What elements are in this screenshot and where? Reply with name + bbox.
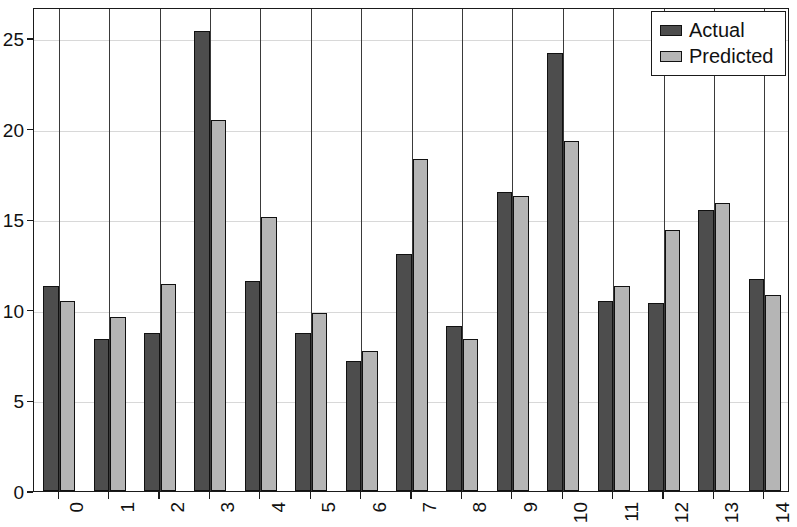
x-tick-label: 3 — [218, 502, 237, 513]
x-tick-mark — [259, 492, 260, 499]
bar-predicted — [715, 203, 731, 491]
bar-actual — [144, 333, 160, 491]
bar-predicted — [413, 159, 429, 491]
x-tick-mark — [58, 492, 59, 499]
x-tick-label: 12 — [672, 502, 691, 523]
bar-actual — [547, 53, 563, 492]
x-tick-label: 14 — [773, 502, 792, 523]
x-tick-mark — [410, 492, 411, 499]
bar-actual — [245, 281, 261, 491]
bar-actual — [446, 326, 462, 491]
x-tick-mark — [763, 492, 764, 499]
legend-entry-predicted: Predicted — [660, 43, 774, 69]
y-tick-label: 10 — [0, 301, 24, 320]
bar-predicted — [161, 284, 177, 491]
bar-actual — [346, 361, 362, 491]
x-tick-mark — [158, 492, 159, 499]
chart-legend: Actual Predicted — [651, 11, 786, 76]
x-tick-mark — [108, 492, 109, 499]
x-tick-label: 10 — [571, 502, 590, 523]
y-tick-label: 20 — [0, 120, 24, 139]
legend-swatch-predicted-icon — [660, 51, 682, 62]
bar-predicted — [614, 286, 630, 491]
bar-predicted — [463, 339, 479, 491]
bar-actual — [396, 254, 412, 491]
y-tick-label: 5 — [0, 392, 24, 411]
bar-predicted — [362, 351, 378, 491]
bar-actual — [94, 339, 110, 491]
bar-predicted — [564, 141, 580, 491]
x-axis: 01234567891011121314 — [33, 492, 789, 527]
legend-label-actual: Actual — [689, 20, 745, 40]
legend-label-predicted: Predicted — [689, 46, 774, 66]
x-tick-label: 5 — [319, 502, 338, 513]
bar-actual — [295, 333, 311, 491]
y-tick-label: 0 — [0, 483, 24, 502]
bar-actual — [749, 279, 765, 491]
x-tick-label: 7 — [420, 502, 439, 513]
x-tick-label: 0 — [67, 502, 86, 513]
bar-predicted — [110, 317, 126, 491]
bar-predicted — [60, 301, 76, 491]
y-tick-label: 25 — [0, 30, 24, 49]
bar-predicted — [261, 217, 277, 491]
x-tick-mark — [713, 492, 714, 499]
bar-chart: 0510152025 01234567891011121314 Actual P… — [0, 0, 797, 527]
x-tick-mark — [360, 492, 361, 499]
bar-actual — [598, 301, 614, 491]
y-axis: 0510152025 — [0, 0, 33, 527]
bar-predicted — [765, 295, 781, 491]
bar-actual — [43, 286, 59, 491]
bar-actual — [698, 210, 714, 491]
x-tick-label: 11 — [622, 502, 641, 522]
x-tick-mark — [612, 492, 613, 499]
x-tick-label: 1 — [118, 502, 137, 513]
x-tick-label: 2 — [168, 502, 187, 513]
x-tick-label: 4 — [269, 502, 288, 513]
legend-entry-actual: Actual — [660, 17, 774, 43]
x-tick-label: 8 — [470, 502, 489, 513]
x-tick-mark — [511, 492, 512, 499]
x-tick-mark — [662, 492, 663, 499]
x-tick-label: 6 — [370, 502, 389, 513]
x-tick-label: 13 — [722, 502, 741, 523]
x-tick-mark — [562, 492, 563, 499]
plot-area — [33, 8, 789, 492]
x-tick-mark — [461, 492, 462, 499]
bar-actual — [194, 31, 210, 491]
bar-predicted — [665, 230, 681, 491]
y-tick-label: 15 — [0, 211, 24, 230]
bar-predicted — [312, 313, 328, 491]
bar-actual — [497, 192, 513, 491]
bar-actual — [648, 303, 664, 491]
x-tick-mark — [310, 492, 311, 499]
legend-swatch-actual-icon — [660, 25, 682, 36]
bar-predicted — [211, 120, 227, 491]
x-tick-mark — [209, 492, 210, 499]
x-tick-label: 9 — [521, 502, 540, 513]
bar-predicted — [513, 196, 529, 491]
